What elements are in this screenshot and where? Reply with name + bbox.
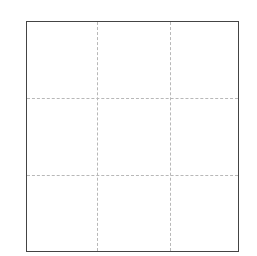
grid-horizontal-line-1 xyxy=(27,98,238,99)
grid-vertical-line-1 xyxy=(97,22,98,251)
grid-horizontal-line-2 xyxy=(27,175,238,176)
grid-vertical-line-2 xyxy=(170,22,171,251)
grid-3x3 xyxy=(26,21,239,252)
